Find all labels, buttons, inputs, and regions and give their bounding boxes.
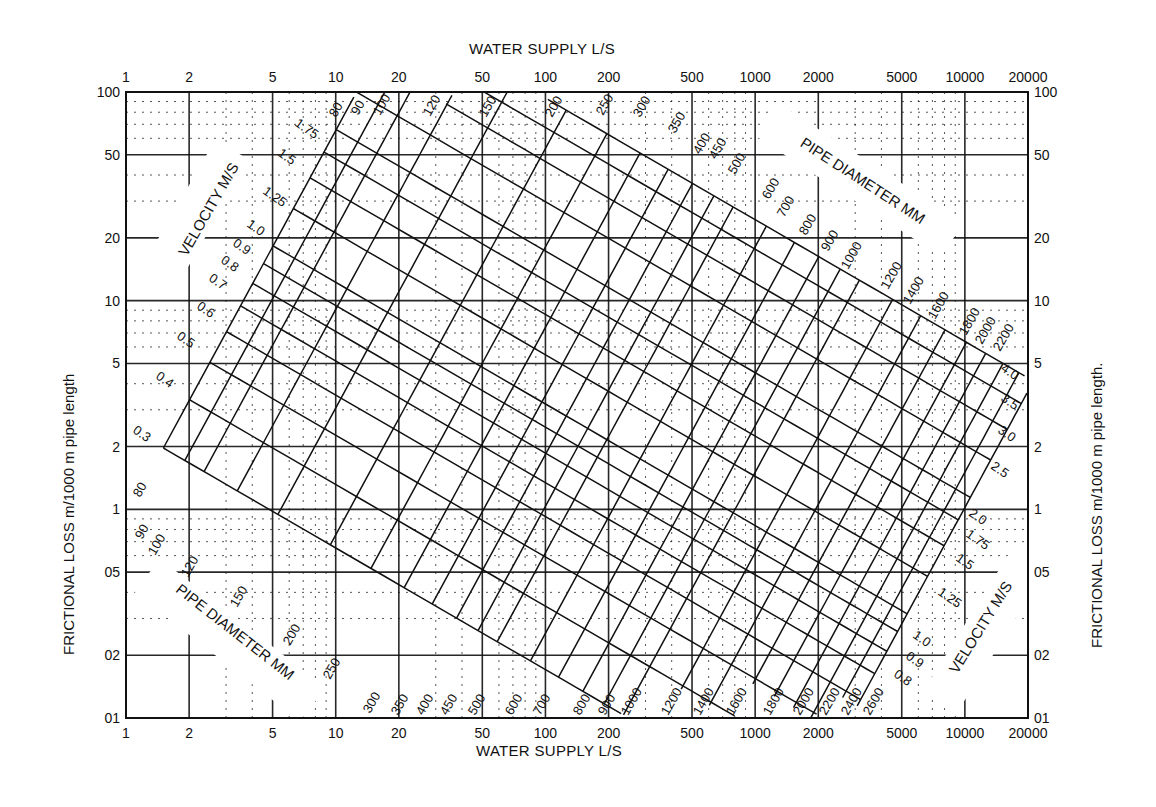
nomogram-chart: 0.30.40.50.60.70.80.91.01.251.51.750.80.…: [0, 0, 1156, 807]
svg-text:20000: 20000: [1009, 69, 1048, 85]
svg-text:0.6: 0.6: [194, 298, 217, 321]
svg-text:2: 2: [185, 69, 193, 85]
svg-text:3.0: 3.0: [995, 422, 1018, 445]
svg-text:250: 250: [593, 91, 617, 117]
y-axis-title-left: FRICTIONAL LOSS m/1000 m pipe length: [60, 374, 77, 655]
svg-text:1: 1: [112, 501, 120, 517]
svg-text:1.5: 1.5: [953, 550, 976, 573]
svg-text:350: 350: [388, 691, 412, 717]
svg-text:01: 01: [1034, 710, 1050, 726]
y-axis-title-right: FRICTIONAL LOSS m/1000 m pipe length.: [1088, 363, 1105, 648]
svg-text:1.0: 1.0: [244, 216, 267, 239]
svg-text:1200: 1200: [658, 685, 685, 718]
svg-text:900: 900: [818, 227, 842, 253]
svg-text:200: 200: [597, 725, 621, 741]
svg-text:500: 500: [680, 69, 704, 85]
svg-text:20: 20: [391, 725, 407, 741]
svg-text:1.75: 1.75: [963, 526, 992, 553]
svg-text:5: 5: [1034, 355, 1042, 371]
svg-text:1600: 1600: [925, 289, 952, 322]
svg-text:50: 50: [475, 69, 491, 85]
svg-text:5: 5: [269, 69, 277, 85]
svg-text:200: 200: [280, 621, 304, 647]
svg-text:700: 700: [530, 691, 554, 717]
svg-text:2: 2: [112, 439, 120, 455]
svg-text:50: 50: [475, 725, 491, 741]
svg-text:600: 600: [502, 691, 526, 717]
svg-text:20000: 20000: [1009, 725, 1048, 741]
svg-text:90: 90: [132, 521, 152, 541]
svg-text:0.7: 0.7: [206, 270, 229, 293]
svg-text:1.25: 1.25: [260, 183, 289, 210]
svg-text:2000: 2000: [803, 725, 834, 741]
svg-text:2000: 2000: [803, 69, 834, 85]
svg-text:0.9: 0.9: [903, 648, 926, 671]
svg-text:2200: 2200: [816, 685, 843, 718]
x-axis-title-bottom: WATER SUPPLY L/S: [476, 742, 622, 759]
svg-text:2.5: 2.5: [988, 458, 1011, 481]
svg-text:800: 800: [796, 211, 820, 237]
svg-text:10000: 10000: [945, 725, 984, 741]
svg-text:50: 50: [104, 147, 120, 163]
svg-text:0.8: 0.8: [891, 666, 914, 689]
svg-text:100: 100: [534, 725, 558, 741]
svg-text:1.5: 1.5: [275, 145, 298, 168]
svg-text:2: 2: [1034, 439, 1042, 455]
svg-text:10: 10: [328, 725, 344, 741]
x-tick-labels-top: 1251020501002005001000200050001000020000: [122, 69, 1048, 85]
svg-text:1: 1: [1034, 501, 1042, 517]
svg-text:5000: 5000: [886, 725, 917, 741]
svg-text:300: 300: [630, 93, 654, 119]
svg-text:100: 100: [97, 84, 121, 100]
svg-text:1: 1: [122, 725, 130, 741]
svg-text:10: 10: [328, 69, 344, 85]
svg-text:10: 10: [104, 293, 120, 309]
svg-text:1000: 1000: [838, 239, 865, 272]
svg-text:05: 05: [104, 564, 120, 580]
svg-text:5: 5: [269, 725, 277, 741]
svg-text:02: 02: [104, 647, 120, 663]
svg-text:1000: 1000: [740, 69, 771, 85]
svg-text:1800: 1800: [760, 685, 787, 718]
svg-text:500: 500: [680, 725, 704, 741]
svg-text:200: 200: [597, 69, 621, 85]
svg-text:150: 150: [476, 93, 500, 119]
svg-text:10: 10: [1034, 293, 1050, 309]
svg-text:350: 350: [665, 109, 689, 135]
svg-text:80: 80: [130, 479, 150, 499]
svg-text:20: 20: [104, 230, 120, 246]
svg-text:250: 250: [320, 655, 344, 681]
svg-text:20: 20: [391, 69, 407, 85]
svg-text:1.75: 1.75: [292, 115, 321, 142]
svg-text:1000: 1000: [618, 685, 645, 718]
y-tick-labels-right: 100502010521050201: [1034, 84, 1058, 726]
svg-text:1000: 1000: [740, 725, 771, 741]
svg-text:2400: 2400: [838, 685, 865, 718]
svg-text:50: 50: [1034, 147, 1050, 163]
svg-text:150: 150: [227, 583, 251, 609]
svg-text:120: 120: [420, 92, 444, 118]
svg-text:90: 90: [348, 97, 368, 117]
svg-text:2600: 2600: [860, 685, 887, 718]
x-tick-labels-bottom: 1251020501002005001000200050001000020000: [122, 725, 1048, 741]
svg-text:1400: 1400: [690, 685, 717, 718]
svg-text:0.3: 0.3: [130, 422, 153, 445]
svg-text:10000: 10000: [945, 69, 984, 85]
svg-text:700: 700: [774, 193, 798, 219]
svg-text:20: 20: [1034, 230, 1050, 246]
svg-text:5000: 5000: [886, 69, 917, 85]
svg-text:0.8: 0.8: [218, 252, 241, 275]
svg-text:0.4: 0.4: [153, 368, 176, 391]
svg-text:600: 600: [759, 175, 783, 201]
svg-text:1400: 1400: [900, 274, 927, 307]
svg-text:0.5: 0.5: [174, 328, 197, 351]
svg-text:1: 1: [122, 69, 130, 85]
svg-text:05: 05: [1034, 564, 1050, 580]
svg-text:100: 100: [1034, 84, 1058, 100]
svg-text:500: 500: [465, 691, 489, 717]
svg-text:01: 01: [104, 710, 120, 726]
svg-text:02: 02: [1034, 647, 1050, 663]
svg-text:5: 5: [112, 355, 120, 371]
svg-text:300: 300: [360, 689, 384, 715]
svg-text:900: 900: [595, 691, 619, 717]
